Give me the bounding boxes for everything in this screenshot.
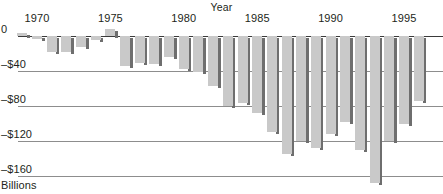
y-axis-units-label: Billions <box>1 179 37 191</box>
bar <box>105 29 115 36</box>
y-tick-label-0: 0 <box>1 23 7 35</box>
x-axis-title: Year <box>0 1 443 13</box>
bar <box>355 36 365 150</box>
bar <box>311 36 321 148</box>
bar <box>76 36 86 47</box>
bar <box>17 33 27 36</box>
y-tick-label-80: –$80 <box>1 93 26 105</box>
bar <box>340 36 350 122</box>
bar <box>179 36 189 69</box>
bar <box>282 36 292 154</box>
x-tick-label-1970: 1970 <box>25 12 50 24</box>
bar <box>135 36 145 63</box>
bar <box>326 36 336 134</box>
bar <box>384 36 394 141</box>
bar <box>238 36 248 103</box>
x-tick-label-1975: 1975 <box>98 12 123 24</box>
bar <box>208 36 218 86</box>
y-tick-label-40: –$40 <box>1 58 26 70</box>
bar <box>296 36 306 141</box>
budget-deficit-bar-chart: Year 197019751980198519901995 0–$40–$80–… <box>0 0 443 194</box>
bar <box>164 36 174 57</box>
plot-area <box>18 36 443 176</box>
bar <box>32 36 42 39</box>
y-tick-label-120: –$120 <box>1 128 32 140</box>
bar <box>399 36 409 124</box>
bar <box>47 36 57 52</box>
x-tick-label-1980: 1980 <box>171 12 196 24</box>
x-tick-label-1995: 1995 <box>392 12 417 24</box>
bar <box>120 36 130 66</box>
x-tick-label-1990: 1990 <box>318 12 343 24</box>
bar <box>61 36 71 52</box>
bar <box>149 36 159 64</box>
bar <box>91 36 101 40</box>
bar <box>252 36 262 113</box>
bar <box>223 36 233 106</box>
x-tick-label-1985: 1985 <box>245 12 270 24</box>
bar <box>193 36 203 72</box>
bar <box>267 36 277 132</box>
y-tick-label-160: –$160 <box>1 163 32 175</box>
bar <box>414 36 424 101</box>
bar <box>370 36 380 183</box>
